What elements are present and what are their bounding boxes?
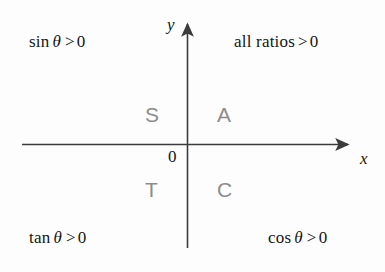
quadrant-4-function: cos	[268, 228, 291, 247]
quadrant-3-function: tan	[29, 228, 50, 247]
quadrant-3-value: 0	[78, 228, 87, 247]
quadrant-4-relation: >	[304, 228, 319, 247]
quadrant-4-value: 0	[319, 228, 328, 247]
quadrant-3-condition: tanθ>0	[29, 229, 86, 246]
cast-letter-s: S	[145, 104, 159, 125]
x-axis-label: x	[360, 150, 368, 167]
quadrant-2-value: 0	[77, 32, 86, 51]
quadrant-2-function: sin	[29, 32, 49, 51]
cast-letter-a: A	[217, 104, 231, 125]
quadrant-1-value: 0	[310, 32, 319, 51]
quadrant-4-condition: cosθ>0	[268, 229, 327, 246]
quadrant-1-condition: all ratios>0	[234, 33, 319, 50]
y-axis-label: y	[167, 16, 175, 33]
quadrant-3-relation: >	[63, 228, 78, 247]
quadrant-4-variable: θ	[291, 228, 304, 247]
cast-diagram: y x 0 sinθ>0 all ratios>0 tanθ>0 cosθ>0 …	[0, 0, 385, 272]
origin-label: 0	[168, 148, 177, 165]
quadrant-1-relation: >	[295, 32, 310, 51]
quadrant-2-relation: >	[62, 32, 77, 51]
quadrant-3-variable: θ	[50, 228, 63, 247]
quadrant-2-condition: sinθ>0	[29, 33, 86, 50]
quadrant-1-function: all ratios	[234, 32, 295, 51]
quadrant-2-variable: θ	[49, 32, 62, 51]
cast-letter-t: T	[145, 179, 158, 200]
cast-letter-c: C	[217, 179, 232, 200]
